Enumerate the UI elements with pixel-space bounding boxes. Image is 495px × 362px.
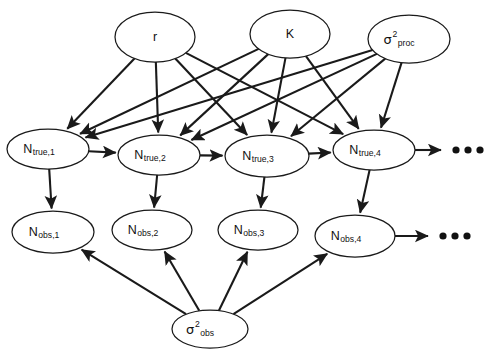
edge-K-to-Ntrue3 xyxy=(271,58,285,133)
edge-s_proc-to-Ntrue4 xyxy=(381,63,402,128)
edge-s_obs-to-Nobs4 xyxy=(233,254,327,314)
node-label-r: r xyxy=(153,30,157,44)
node-label-K: K xyxy=(286,27,295,41)
edges-layer xyxy=(49,49,401,314)
edge-r-to-Ntrue3 xyxy=(175,59,247,135)
edge-Ntrue1-to-Nobs1 xyxy=(49,169,51,209)
node-K[interactable]: K xyxy=(250,10,330,58)
latent-ellipsis-dot-3 xyxy=(476,146,483,153)
dag-figure: rKσ2procNtrue,1Ntrue,2Ntrue,3Ntrue,4Nobs… xyxy=(0,0,495,362)
latent-ellipsis-dot-1 xyxy=(452,146,459,153)
node-Nobs1[interactable]: Nobs,1 xyxy=(12,211,94,253)
edge-r-to-Ntrue1 xyxy=(67,58,134,128)
edge-s_obs-to-Nobs2 xyxy=(165,251,200,310)
node-Ntrue4[interactable]: Ntrue,4 xyxy=(333,130,415,170)
edge-Ntrue1-to-Ntrue2 xyxy=(89,151,116,152)
node-Ntrue2[interactable]: Ntrue,2 xyxy=(118,135,200,175)
node-Nobs4[interactable]: Nobs,4 xyxy=(315,215,395,257)
edge-Ntrue4-to-Nobs4 xyxy=(360,170,369,213)
observed-ellipsis-dot-2 xyxy=(451,232,458,239)
node-s_proc[interactable]: σ2proc xyxy=(368,15,450,63)
node-Nobs2[interactable]: Nobs,2 xyxy=(112,210,192,250)
edge-s_obs-to-Nobs3 xyxy=(219,252,247,311)
node-Ntrue3[interactable]: Ntrue,3 xyxy=(225,135,309,177)
dag-canvas: rKσ2procNtrue,1Ntrue,2Ntrue,3Ntrue,4Nobs… xyxy=(0,0,495,362)
observed-ellipsis-dot-3 xyxy=(463,232,470,239)
node-Ntrue1[interactable]: Ntrue,1 xyxy=(7,129,89,169)
latent-ellipsis-dot-2 xyxy=(464,146,471,153)
observed-ellipsis-dot-1 xyxy=(439,232,446,239)
ellipsis-dots-layer xyxy=(439,146,483,239)
node-Nobs3[interactable]: Nobs,3 xyxy=(218,210,298,250)
node-r[interactable]: r xyxy=(115,12,195,62)
node-s_obs[interactable]: σ2obs xyxy=(172,310,248,348)
edge-Ntrue2-to-Nobs2 xyxy=(154,175,157,208)
edge-Ntrue3-to-Nobs3 xyxy=(261,177,265,208)
edge-Ntrue3-to-Ntrue4 xyxy=(309,152,331,153)
